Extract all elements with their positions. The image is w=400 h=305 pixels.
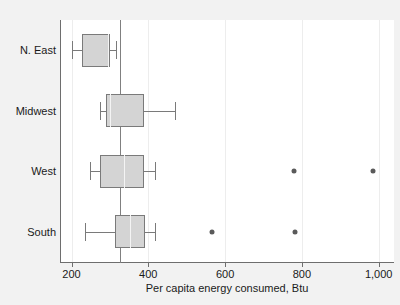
whisker-low-line: [85, 232, 115, 233]
x-axis-title: Per capita energy consumed, Btu: [0, 282, 400, 294]
x-tick-label-1000: 1,000: [365, 268, 393, 280]
median-line: [130, 215, 131, 248]
whisker-high-cap: [175, 102, 176, 120]
gridline-1000: [379, 20, 380, 262]
x-tick-1000: [379, 263, 380, 267]
whisker-low-line: [72, 50, 83, 51]
outlier-point: [370, 169, 375, 174]
whisker-high-line: [144, 111, 175, 112]
x-tick-400: [148, 263, 149, 267]
outlier-point: [291, 169, 296, 174]
whisker-high-line: [110, 50, 117, 51]
gridline-400: [148, 20, 149, 262]
whisker-low-cap: [85, 223, 86, 241]
whisker-low-cap: [72, 41, 73, 59]
category-label-south: South: [27, 226, 56, 238]
x-tick-600: [225, 263, 226, 267]
whisker-high-cap: [155, 162, 156, 180]
x-tick-label-600: 600: [216, 268, 234, 280]
outlier-point: [210, 229, 215, 234]
whisker-low-line: [90, 171, 100, 172]
whisker-low-cap: [100, 102, 101, 120]
median-line: [108, 34, 109, 67]
whisker-low-cap: [90, 162, 91, 180]
whisker-high-line: [144, 171, 155, 172]
gridline-600: [225, 20, 226, 262]
category-label-midwest: Midwest: [16, 105, 56, 117]
x-tick-label-800: 800: [293, 268, 311, 280]
whisker-high-cap: [116, 41, 117, 59]
whisker-low-line: [100, 111, 107, 112]
median-line: [124, 155, 125, 188]
box-iqr: [100, 155, 145, 188]
box-iqr: [106, 94, 144, 127]
category-label-n-east: N. East: [20, 44, 56, 56]
plot-area: [60, 20, 394, 262]
whisker-high-cap: [155, 223, 156, 241]
x-tick-label-400: 400: [139, 268, 157, 280]
box-iqr: [82, 34, 109, 67]
median-line: [110, 94, 111, 127]
box-plot-chart: 2004006008001,000 N. EastMidwestWestSout…: [0, 0, 400, 305]
x-tick-800: [302, 263, 303, 267]
whisker-high-line: [145, 232, 155, 233]
outlier-point: [292, 229, 297, 234]
category-label-west: West: [31, 165, 56, 177]
y-axis-line: [60, 20, 61, 263]
x-tick-200: [72, 263, 73, 267]
gridline-800: [302, 20, 303, 262]
x-axis-line: [60, 262, 394, 263]
x-tick-label-200: 200: [62, 268, 80, 280]
